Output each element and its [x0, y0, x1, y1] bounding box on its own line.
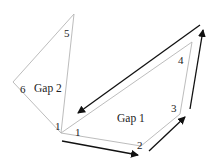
arrow-bottom — [62, 141, 138, 155]
vertex-label-5: 5 — [64, 27, 70, 39]
arrow-lower-right — [149, 117, 185, 151]
vertex-label-6: 6 — [20, 83, 26, 95]
gap1-label: Gap 1 — [117, 112, 145, 125]
arrow-diagonal-back — [78, 25, 200, 113]
vertex-label-1-right: 1 — [75, 126, 81, 138]
vertex-label-3: 3 — [171, 102, 177, 114]
vertex-label-4: 4 — [178, 54, 184, 66]
gap2-label: Gap 2 — [34, 82, 62, 95]
vertex-label-1-left: 1 — [55, 120, 61, 132]
gap-diagram: Gap 2 Gap 1 6 5 1 1 2 3 4 — [0, 0, 218, 166]
vertex-label-2: 2 — [137, 139, 143, 151]
gap1-polygon — [61, 42, 192, 146]
